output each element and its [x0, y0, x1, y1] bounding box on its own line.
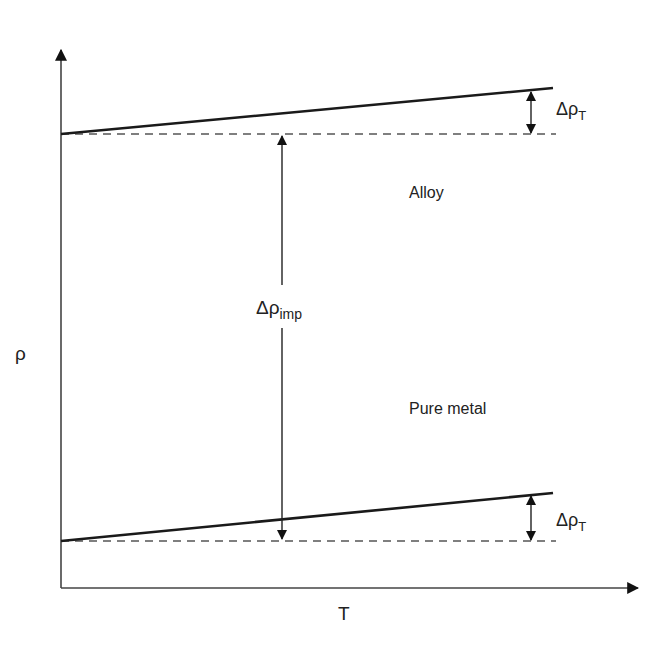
y-axis-label: ρ — [15, 343, 26, 364]
pure-metal-line — [61, 493, 553, 541]
delta-imp-label: Δρimp — [256, 297, 302, 322]
delta-T-bottom-label: ΔρT — [556, 510, 586, 534]
alloy-label: Alloy — [409, 184, 444, 201]
alloy-line — [61, 88, 553, 134]
delta-T-top-label: ΔρT — [556, 99, 586, 123]
resistivity-diagram: ρ T Alloy Pure metal Δρimp ΔρT ΔρT — [0, 0, 669, 651]
x-axis-label: T — [338, 603, 350, 624]
pure-metal-label: Pure metal — [409, 400, 486, 417]
axes — [61, 50, 638, 588]
